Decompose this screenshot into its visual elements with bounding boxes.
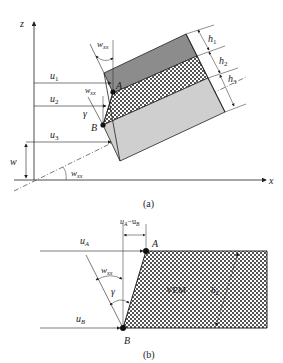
w-label: w: [10, 156, 17, 167]
h2-label: h2: [219, 55, 228, 68]
u3-label: u3: [50, 129, 59, 142]
caption-b: (b): [143, 349, 155, 361]
caption-a: (a): [143, 198, 154, 210]
laminate-shear-diagram: z x h1 h2 h3 wxx wxx γ: [0, 0, 283, 363]
u2-label: u2: [50, 93, 59, 106]
point-A-b: [143, 248, 149, 254]
wxx-bottom-arc: [63, 167, 66, 180]
point-B-label: B: [91, 122, 97, 133]
z-axis-label: z: [19, 18, 24, 29]
wxx-top-label: wxx: [97, 39, 109, 50]
diff-label: uA−uB: [120, 217, 140, 227]
u1-label: u1: [50, 70, 59, 83]
normal-ref-B: [88, 97, 103, 125]
gamma-arc-b: [110, 300, 129, 305]
point-A: [110, 89, 115, 94]
figure-b: VEM h2 uA−uB wxx γ uA uB A B (b): [40, 217, 267, 361]
wxx-bottom-label: wxx: [71, 168, 83, 179]
gamma-label-b: γ: [111, 286, 116, 297]
uB-label: uB: [76, 313, 85, 325]
point-A-label-b: A: [151, 238, 159, 249]
point-B-b: [120, 325, 126, 331]
gamma-label-a: γ: [83, 108, 88, 119]
point-A-label: A: [115, 80, 123, 91]
wxx-mid-label: wxx: [85, 86, 96, 96]
vem-core: [123, 251, 267, 328]
wxx-top-arc: [96, 56, 113, 61]
wxx-arc-b: [96, 276, 122, 280]
h1-label: h1: [208, 33, 217, 46]
point-B: [100, 122, 105, 127]
uA-label: uA: [80, 235, 89, 247]
vem-label: VEM: [166, 285, 186, 295]
h3-label: h3: [228, 73, 237, 86]
figure-a: z x h1 h2 h3 wxx wxx γ: [10, 18, 274, 210]
point-B-label-b: B: [124, 335, 130, 346]
wxx-label-b: wxx: [101, 265, 113, 276]
x-axis-label: x: [268, 175, 274, 186]
